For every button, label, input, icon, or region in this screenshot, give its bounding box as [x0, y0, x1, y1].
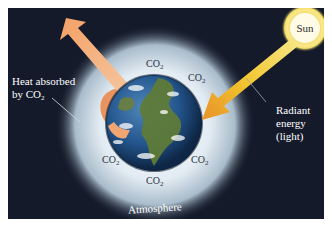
subscript: 2	[160, 63, 164, 71]
earth-icon	[106, 75, 202, 171]
co2-label-upper-right: CO2	[188, 72, 205, 83]
co2-text: CO	[191, 154, 205, 165]
heat-absorbed-label-line2: by CO2	[12, 88, 45, 100]
subscript: 2	[205, 159, 209, 167]
co2-label-lower-right: CO2	[191, 154, 208, 165]
diagram-panel: Sun Heat absorbed by CO2 Radiant energy …	[8, 8, 324, 219]
co2-label-lower-left: CO2	[102, 154, 119, 165]
co2-text: CO	[146, 175, 160, 186]
radiant-label-line1: Radiant	[276, 104, 310, 116]
co2-label-top: CO2	[146, 58, 163, 69]
subscript: 2	[41, 94, 45, 102]
co2-label-bottom: CO2	[146, 175, 163, 186]
radiant-label-line3: (light)	[276, 130, 304, 142]
co2-text: CO	[102, 154, 116, 165]
subscript: 2	[116, 159, 120, 167]
heat-absorbed-text: by CO	[12, 88, 41, 100]
radiant-label-line2: energy	[276, 117, 306, 129]
sun-label: Sun	[292, 22, 318, 34]
heat-absorbed-label-line1: Heat absorbed	[12, 75, 75, 87]
subscript: 2	[160, 180, 164, 188]
co2-text: CO	[146, 58, 160, 69]
subscript: 2	[202, 77, 206, 85]
co2-text: CO	[188, 72, 202, 83]
